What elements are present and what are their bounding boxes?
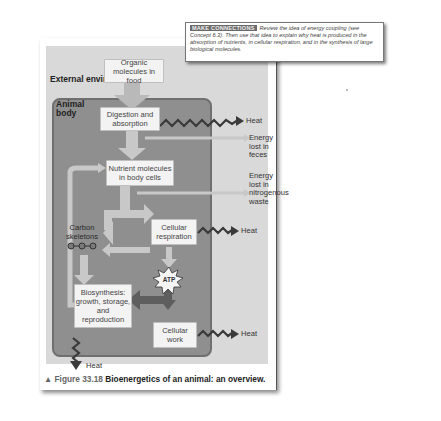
node-biosynthesis: Biosynthesis: growth, storage, and repro… [74, 284, 132, 328]
output-heat-respiration: Heat [241, 227, 257, 236]
output-heat-biosynthesis: Heat [86, 362, 102, 371]
heat-text: Heat [86, 361, 102, 370]
feces-loss-arrow [145, 134, 250, 142]
heat-zigzag-respiration [198, 228, 232, 233]
organic-molecules-text: Organic molecules in food [105, 58, 163, 85]
digestion-text: Digestion and absorption [101, 110, 159, 128]
output-heat-work: Heat [241, 330, 257, 339]
biosynthesis-text: Biosynthesis: growth, storage, and repro… [75, 288, 131, 324]
nitrogenous-loss-arrow [137, 189, 250, 197]
node-cellular-respiration: Cellular respiration [151, 219, 197, 245]
atp-energy-arrows [128, 288, 176, 310]
cellular-work-text: Cellular work [154, 326, 196, 344]
output-energy-nitrogenous: Energy lost in nitrogenous waste [249, 172, 283, 206]
heat-zigzag-work [198, 331, 232, 336]
atp-label: ATP [161, 276, 177, 285]
heat-text: Heat [246, 116, 262, 125]
output-heat-digestion: Heat [246, 117, 262, 126]
energy-nitrogenous-text: Energy lost in nitrogenous waste [249, 171, 289, 206]
carbon-exchange-arrow [102, 243, 150, 257]
output-energy-feces: Energy lost in feces [249, 134, 277, 160]
node-digestion-absorption: Digestion and absorption [100, 107, 160, 131]
make-connections-callout: MAKE CONNECTIONSReview the idea of energ… [185, 22, 384, 62]
nutrient-molecules-text: Nutrient molecules in body cells [107, 164, 173, 182]
energy-feces-text: Energy lost in feces [249, 133, 273, 159]
diagram-arrows [0, 0, 441, 421]
speck [346, 89, 348, 91]
atp-text: ATP [163, 276, 176, 283]
cellular-respiration-text: Cellular respiration [152, 223, 196, 241]
callout-tag: MAKE CONNECTIONS [190, 25, 257, 31]
node-cellular-work: Cellular work [153, 322, 197, 348]
heat-zigzag-digestion [160, 120, 238, 126]
absorption-arrow [118, 127, 146, 160]
carbon-skeleton-icon [68, 243, 96, 249]
caption-marker-icon: ▲ [44, 374, 52, 384]
node-nutrient-molecules: Nutrient molecules in body cells [106, 160, 174, 186]
figure-number: Figure 33.18 [55, 374, 103, 384]
heat-text: Heat [241, 329, 257, 338]
figure-caption: ▲ Figure 33.18 Bioenergetics of an anima… [44, 374, 265, 384]
heat-text: Heat [241, 226, 257, 235]
carbon-skeletons-label: Carbon skeletons [65, 224, 99, 241]
respiration-to-atp-arrow [161, 247, 177, 268]
skeleton-to-biosynthesis-arrow [74, 255, 94, 285]
carbon-skeletons-text: Carbon skeletons [66, 223, 98, 241]
food-intake-arrow [114, 81, 150, 110]
node-organic-molecules: Organic molecules in food [104, 59, 164, 83]
heat-zigzag-biosynthesis [73, 338, 79, 363]
figure-title: Bioenergetics of an animal: an overview. [105, 374, 265, 384]
